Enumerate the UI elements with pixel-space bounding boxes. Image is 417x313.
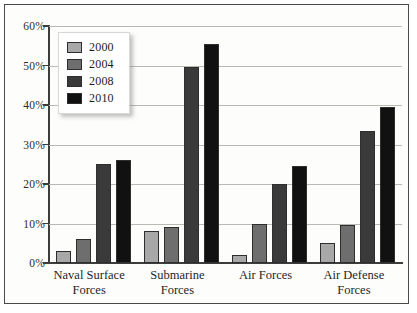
bar-2010	[380, 107, 395, 263]
y-axis-tick-label: 50%	[7, 60, 45, 72]
legend-swatch-icon	[67, 42, 82, 53]
bar-group	[314, 26, 402, 263]
bar-2010	[116, 160, 131, 263]
category-label: Naval SurfaceForces	[45, 268, 133, 298]
bar-2008	[96, 164, 111, 263]
y-axis-tick-mark	[43, 104, 49, 106]
legend-swatch-icon	[67, 59, 82, 70]
y-axis: 60%50%40%30%20%10%0%	[5, 5, 45, 313]
y-axis-tick-label: 40%	[7, 99, 45, 111]
bar-2010	[204, 44, 219, 263]
y-axis-tick-mark	[43, 223, 49, 225]
y-axis-tick-mark	[43, 183, 49, 185]
legend-item-2010: 2010	[67, 90, 122, 107]
category-label: Air Forces	[222, 268, 310, 283]
bar-group	[226, 26, 314, 263]
legend-item-2000: 2000	[67, 39, 122, 56]
y-axis-tick-mark	[43, 144, 49, 146]
y-axis-tick-mark	[43, 25, 49, 27]
y-axis-tick-mark	[43, 262, 49, 264]
chart-legend: 2000200420082010	[58, 32, 130, 114]
category-label-line: Naval Surface	[45, 268, 133, 283]
legend-label: 2008	[89, 74, 114, 89]
y-axis-tick-mark	[43, 65, 49, 67]
y-axis-tick-label: 20%	[7, 178, 45, 190]
bar-2004	[252, 224, 267, 264]
y-axis-tick-label: 0%	[7, 257, 45, 269]
category-label-line: Air Defense	[310, 268, 398, 283]
category-label: SubmarineForces	[133, 268, 221, 298]
bar-2008	[360, 131, 375, 263]
y-axis-tick-label: 10%	[7, 218, 45, 230]
legend-label: 2004	[89, 57, 114, 72]
category-label-line: Forces	[133, 283, 221, 298]
y-axis-tick-label: 30%	[7, 139, 45, 151]
bar-2000	[320, 243, 335, 263]
chart-figure-frame: 60%50%40%30%20%10%0% Naval SurfaceForces…	[4, 4, 409, 304]
y-axis-tick-label: 60%	[7, 20, 45, 32]
category-label-line: Air Forces	[222, 268, 310, 283]
bar-2004	[76, 239, 91, 263]
category-label: Air DefenseForces	[310, 268, 398, 298]
bar-2000	[56, 251, 71, 263]
bar-2000	[144, 231, 159, 263]
legend-label: 2010	[89, 91, 114, 106]
bar-group	[137, 26, 225, 263]
bar-2004	[164, 227, 179, 263]
bar-2008	[184, 67, 199, 263]
bar-2008	[272, 184, 287, 263]
legend-label: 2000	[89, 40, 114, 55]
legend-swatch-icon	[67, 93, 82, 104]
category-label-line: Submarine	[133, 268, 221, 283]
bar-2004	[340, 225, 355, 263]
category-label-line: Forces	[310, 283, 398, 298]
bar-2000	[232, 255, 247, 263]
legend-item-2004: 2004	[67, 56, 122, 73]
legend-swatch-icon	[67, 76, 82, 87]
category-label-line: Forces	[45, 283, 133, 298]
bar-2010	[292, 166, 307, 263]
legend-item-2008: 2008	[67, 73, 122, 90]
